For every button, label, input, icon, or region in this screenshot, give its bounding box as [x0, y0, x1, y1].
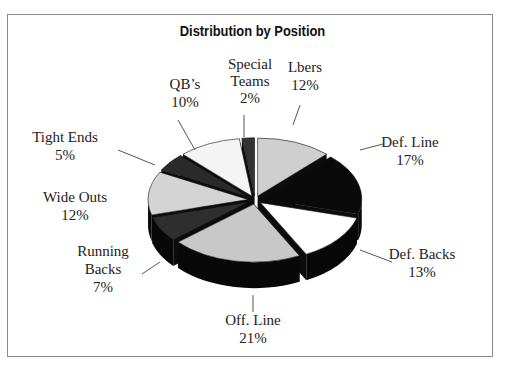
label-special-teams: Special Teams 2%	[220, 56, 280, 107]
label-running-backs: Running Backs 7%	[68, 242, 138, 296]
leader-line	[178, 120, 195, 150]
leader-line	[118, 150, 155, 165]
label-def-backs: Def. Backs 13%	[372, 245, 472, 281]
leader-line	[293, 105, 300, 125]
label-def-line: Def. Line 17%	[365, 133, 455, 169]
label-lbers: Lbers 12%	[275, 58, 335, 94]
label-off-line: Off. Line 21%	[208, 311, 298, 347]
label-wide-outs: Wide Outs 12%	[35, 188, 115, 224]
label-tight-ends: Tight Ends 5%	[20, 128, 110, 164]
label-qbs: QB’s 10%	[160, 75, 210, 111]
leader-line	[142, 262, 160, 274]
